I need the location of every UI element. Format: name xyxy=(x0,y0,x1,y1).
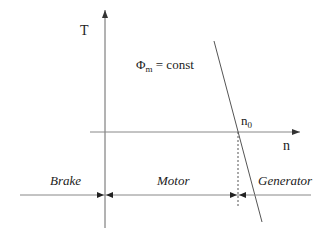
flux-subscript: m xyxy=(146,64,153,74)
region-generator-label: Generator xyxy=(258,174,312,187)
region-brake-label: Brake xyxy=(50,174,81,187)
diagram-canvas xyxy=(0,0,326,250)
n0-subscript: 0 xyxy=(248,120,253,130)
flux-const: = const xyxy=(153,57,194,72)
region-motor-label: Motor xyxy=(157,174,190,187)
x-axis-label: n xyxy=(283,139,290,153)
no-load-speed-label: n0 xyxy=(241,114,252,130)
flux-condition-label: Φm = const xyxy=(136,58,194,74)
flux-symbol: Φ xyxy=(136,57,146,72)
y-axis-label: T xyxy=(80,24,89,38)
